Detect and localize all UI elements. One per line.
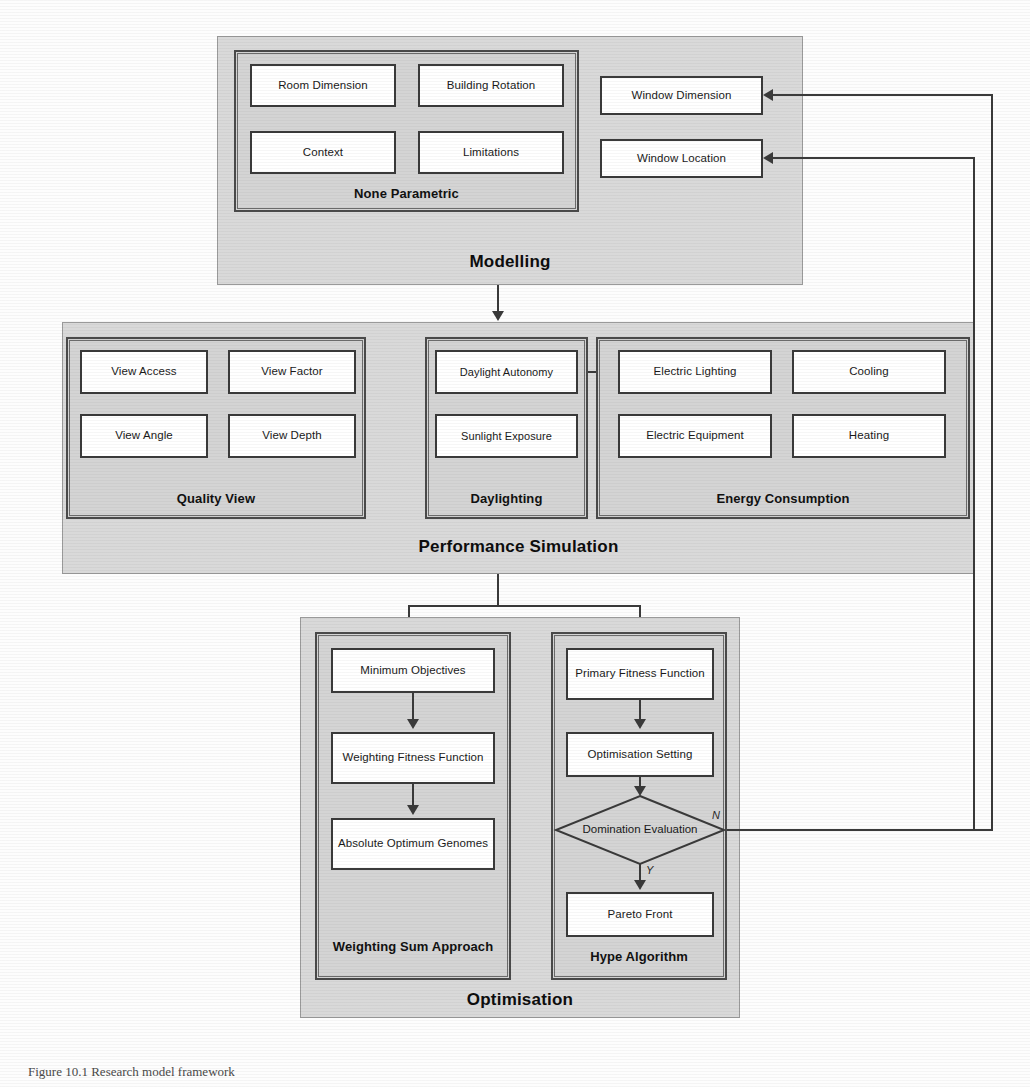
figure-caption: Figure 10.1 Research model framework xyxy=(28,1064,235,1080)
box-pareto-front[interactable]: Pareto Front xyxy=(566,892,714,937)
group-label-energy-consumption: Energy Consumption xyxy=(596,487,970,511)
feedback-inner-vertical xyxy=(973,157,975,829)
group-label-daylighting: Daylighting xyxy=(425,487,588,511)
branch-label-yes: Y xyxy=(646,864,653,876)
box-window-dimension[interactable]: Window Dimension xyxy=(600,76,763,115)
box-electric-lighting[interactable]: Electric Lighting xyxy=(618,350,772,394)
branch-label-no: N xyxy=(712,809,720,821)
group-label-none-parametric: None Parametric xyxy=(234,182,579,206)
arrowhead-minobj-to-wff xyxy=(407,719,419,729)
box-view-access[interactable]: View Access xyxy=(80,350,208,394)
feedback-outer-vertical xyxy=(991,95,993,831)
box-view-angle[interactable]: View Angle xyxy=(80,414,208,458)
figure-canvas: Room Dimension Building Rotation Context… xyxy=(0,0,1030,1087)
decision-domination-evaluation[interactable]: Domination Evaluation xyxy=(553,793,727,867)
box-view-depth[interactable]: View Depth xyxy=(228,414,356,458)
box-view-factor[interactable]: View Factor xyxy=(228,350,356,394)
connector-minobj-to-wff xyxy=(412,693,414,722)
stage-label-performance-simulation: Performance Simulation xyxy=(62,533,975,561)
box-optimisation-setting[interactable]: Optimisation Setting xyxy=(566,732,714,777)
box-weighting-fitness-function[interactable]: Weighting Fitness Function xyxy=(331,732,495,784)
stage-label-optimisation: Optimisation xyxy=(300,985,740,1015)
group-label-hype-algorithm: Hype Algorithm xyxy=(551,942,727,972)
arrowhead-decision-to-pareto xyxy=(634,880,646,890)
arrowhead-to-window-dimension xyxy=(763,89,773,101)
feedback-to-window-location xyxy=(773,157,975,159)
box-cooling[interactable]: Cooling xyxy=(792,350,946,394)
box-sunlight-exposure[interactable]: Sunlight Exposure xyxy=(435,414,578,458)
box-daylight-autonomy[interactable]: Daylight Autonomy xyxy=(435,350,578,394)
box-absolute-optimum-genomes[interactable]: Absolute Optimum Genomes xyxy=(331,818,495,870)
arrowhead-pff-to-os xyxy=(634,719,646,729)
arrowhead-os-to-decision xyxy=(634,786,646,796)
arrowhead-modelling-to-simulation xyxy=(492,311,504,321)
decision-label: Domination Evaluation xyxy=(553,793,727,867)
group-label-weighting-sum-approach: Weighting Sum Approach xyxy=(315,925,511,969)
box-heating[interactable]: Heating xyxy=(792,414,946,458)
box-context[interactable]: Context xyxy=(250,131,396,174)
arrowhead-to-window-location xyxy=(763,152,773,164)
arrowhead-wff-to-aog xyxy=(407,805,419,815)
box-building-rotation[interactable]: Building Rotation xyxy=(418,64,564,107)
box-minimum-objectives[interactable]: Minimum Objectives xyxy=(331,648,495,693)
box-window-location[interactable]: Window Location xyxy=(600,139,763,178)
box-room-dimension[interactable]: Room Dimension xyxy=(250,64,396,107)
connector-optimisation-bracket xyxy=(408,605,641,607)
stage-label-modelling: Modelling xyxy=(217,248,803,276)
group-label-quality-view: Quality View xyxy=(66,487,366,511)
box-primary-fitness-function[interactable]: Primary Fitness Function xyxy=(566,648,714,700)
connector-wff-to-aog xyxy=(412,784,414,807)
box-limitations[interactable]: Limitations xyxy=(418,131,564,174)
feedback-to-window-dimension xyxy=(773,94,993,96)
feedback-inner-bottom xyxy=(727,829,975,831)
connector-simulation-drop xyxy=(497,574,499,607)
box-electric-equipment[interactable]: Electric Equipment xyxy=(618,414,772,458)
